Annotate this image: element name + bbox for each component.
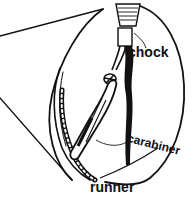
carabiner-icon: [70, 80, 130, 159]
rock-crack: [124, 46, 133, 165]
magnifier-outline-right: [105, 6, 184, 185]
chock-icon: [116, 4, 146, 48]
chock-sling: [104, 46, 126, 84]
label-chock: chock: [128, 45, 168, 59]
label-runner: runner: [90, 180, 134, 194]
climbing-gear-diagram: chock carabiner runner: [0, 0, 194, 198]
diagram-drawing: [0, 0, 194, 198]
